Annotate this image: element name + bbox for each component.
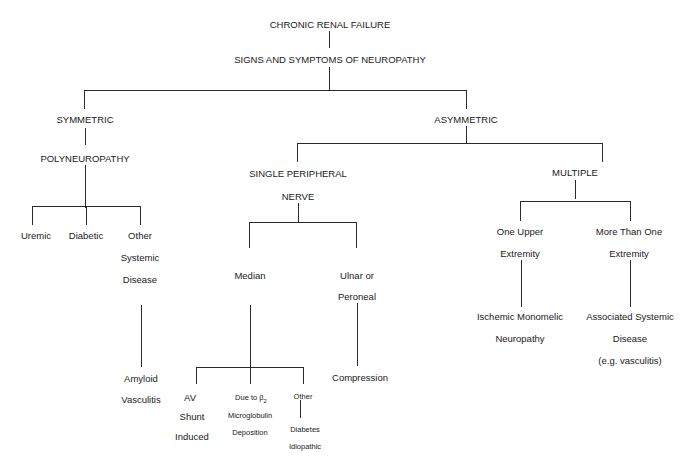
node-uremic: Uremic (21, 230, 51, 241)
node-diabetic: Diabetic (69, 230, 103, 241)
node-idiopathic: Idiopathic (289, 442, 321, 451)
node-vasculitis: Vasculitis (121, 394, 160, 405)
connector (86, 206, 87, 225)
connector (357, 303, 358, 366)
connector (630, 201, 631, 221)
node-b2-microglobulin: Microglobulin (228, 411, 272, 420)
node-av-shunt: AV (184, 392, 196, 403)
node-other-systemic: Systemic (121, 252, 160, 263)
connector (575, 180, 576, 199)
node-diabetes: Diabetes (290, 425, 320, 434)
node-b2-microglobulin: Deposition (232, 428, 267, 437)
node-more-than-one-extremity: Extremity (609, 248, 649, 259)
node-ulnar-peroneal: Ulnar or (340, 270, 374, 281)
node-median: Median (234, 270, 265, 281)
connector (141, 305, 142, 367)
connector (298, 203, 299, 223)
node-single-peripheral-nerve: SINGLE PERIPHERAL (249, 168, 347, 179)
node-multiple: MULTIPLE (552, 167, 598, 178)
node-one-upper-extremity: Extremity (500, 248, 540, 259)
b2-label-prefix: Due to β (235, 393, 264, 402)
node-symmetric: SYMMETRIC (57, 114, 114, 125)
connector (297, 143, 298, 162)
node-associated-systemic: (e.g. vasculitis) (598, 355, 661, 366)
node-ischemic-monomelic: Neuropathy (495, 333, 544, 344)
connector (249, 222, 250, 248)
node-av-shunt: Induced (175, 431, 209, 442)
connector (466, 126, 467, 144)
connector (85, 128, 86, 145)
node-median-other: Other (294, 392, 313, 401)
connector (303, 367, 304, 384)
connector (329, 31, 330, 48)
node-associated-systemic: Associated Systemic (586, 311, 674, 322)
connector (84, 90, 85, 109)
connector (85, 165, 86, 208)
connector (329, 67, 330, 91)
node-ulnar-peroneal: Peroneal (338, 291, 376, 302)
connector (466, 90, 467, 109)
node-associated-systemic: Disease (613, 333, 647, 344)
connector (140, 206, 141, 225)
node-other-systemic: Other (128, 230, 152, 241)
neuropathy-flowchart: CHRONIC RENAL FAILURE SIGNS AND SYMPTOMS… (0, 0, 686, 462)
node-b2-microglobulin: Due to β2 (235, 393, 267, 402)
node-polyneuropathy: POLYNEUROPATHY (40, 153, 129, 164)
node-av-shunt: Shunt (180, 411, 205, 422)
connector (520, 201, 631, 202)
connector (602, 143, 603, 162)
connector (297, 143, 603, 144)
node-amyloid: Amyloid (124, 373, 158, 384)
node-asymmetric: ASYMMETRIC (434, 114, 497, 125)
connector (521, 260, 522, 307)
connector (520, 201, 521, 221)
connector (356, 222, 357, 248)
connector (250, 305, 251, 368)
node-signs-symptoms: SIGNS AND SYMPTOMS OF NEUROPATHY (234, 54, 426, 65)
b2-subscript: 2 (264, 398, 267, 404)
node-single-peripheral-nerve: NERVE (282, 191, 315, 202)
node-compression: Compression (332, 372, 388, 383)
node-ischemic-monomelic: Ischemic Monomelic (477, 311, 563, 322)
node-one-upper-extremity: One Upper (497, 226, 543, 237)
connector (196, 367, 197, 384)
connector (84, 90, 467, 91)
connector (300, 400, 301, 418)
node-chronic-renal-failure: CHRONIC RENAL FAILURE (270, 19, 391, 30)
connector (630, 260, 631, 307)
connector (249, 222, 357, 223)
connector (32, 206, 33, 225)
connector (250, 367, 251, 384)
node-more-than-one-extremity: More Than One (596, 226, 662, 237)
node-other-systemic: Disease (123, 274, 157, 285)
